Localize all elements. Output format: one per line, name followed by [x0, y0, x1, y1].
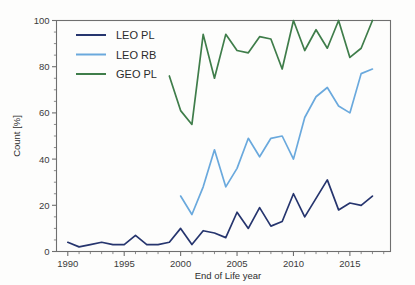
series-line-leo-rb — [181, 69, 373, 215]
series-lines — [68, 21, 373, 247]
y-tick-label: 60 — [39, 107, 50, 118]
y-tick-label: 80 — [39, 61, 50, 72]
line-chart: 020406080100 199019952000200520102015 Co… — [0, 0, 415, 285]
x-tick-label: 2010 — [283, 258, 304, 269]
x-tick-label: 1990 — [57, 258, 78, 269]
x-axis: 199019952000200520102015 — [57, 252, 384, 269]
y-tick-label: 40 — [39, 154, 50, 165]
x-tick-label: 2000 — [170, 258, 191, 269]
x-axis-label: End of Life year — [195, 270, 262, 281]
legend-label-leo-rb: LEO RB — [116, 49, 156, 61]
y-tick-label: 100 — [34, 15, 50, 26]
y-tick-label: 20 — [39, 200, 50, 211]
x-tick-label: 2015 — [339, 258, 360, 269]
series-line-leo-pl — [68, 180, 373, 247]
y-tick-label: 0 — [44, 246, 49, 257]
legend: LEO PLLEO RBGEO PL — [76, 29, 157, 80]
figure-container: 020406080100 199019952000200520102015 Co… — [0, 0, 415, 285]
y-axis-label: Count [%] — [11, 115, 22, 157]
y-axis: 020406080100 — [34, 15, 57, 257]
plot-frame — [57, 21, 391, 252]
x-tick-label: 1995 — [114, 258, 135, 269]
legend-label-geo-pl: GEO PL — [116, 68, 157, 80]
x-tick-label: 2005 — [226, 258, 247, 269]
legend-label-leo-pl: LEO PL — [116, 29, 155, 41]
